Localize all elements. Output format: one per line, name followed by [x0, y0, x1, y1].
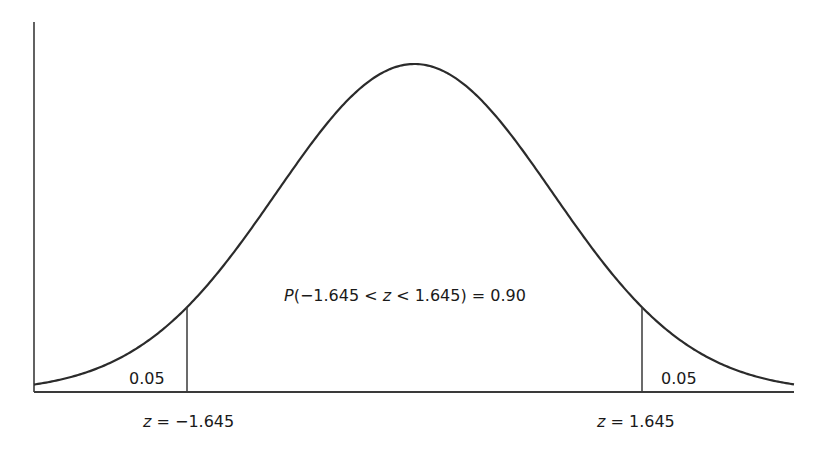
normal-curve: [34, 64, 794, 385]
prob-z: z: [383, 286, 391, 305]
right-critical-value-label: z = 1.645: [597, 412, 675, 431]
probability-annotation: P(−1.645 < z < 1.645) = 0.90: [284, 286, 526, 305]
prob-P: P: [284, 286, 294, 305]
left-critical-value-label: z = −1.645: [143, 412, 234, 431]
prob-open: (−1.645 <: [294, 286, 383, 305]
prob-close: < 1.645) = 0.90: [391, 286, 526, 305]
normal-distribution-chart: [0, 0, 824, 455]
left-tail-area-label: 0.05: [129, 369, 165, 388]
right-tail-area-label: 0.05: [661, 369, 697, 388]
right-z-value: = 1.645: [605, 412, 674, 431]
left-z-value: = −1.645: [151, 412, 234, 431]
